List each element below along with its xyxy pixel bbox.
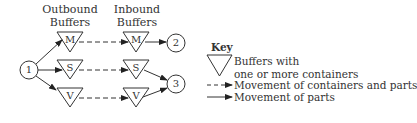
inbound-buffer-v-label: V [129,89,143,102]
key-buffer-triangle-icon [207,55,232,76]
inbound-buffer-m-label: M [129,33,143,46]
key-solid-label: Movement of parts [234,91,335,104]
inbound-header-line1: Inbound [107,3,167,16]
key-buffer-label-line1: Buffers with [234,55,299,68]
outbound-header-line1: Outbound [40,3,100,16]
outbound-header: Outbound Buffers [40,3,100,29]
inbound-buffer-s-label: S [129,61,143,74]
key-title: Key [211,41,233,54]
node-2-label: 2 [170,36,182,49]
outbound-buffer-v-label: V [63,89,77,102]
outbound-buffer-m-label: M [63,33,77,46]
node-1-label: 1 [23,63,35,76]
edge-1-to-outbound-v [36,76,56,90]
edge-inbound-s-to-3 [144,70,167,80]
inbound-header: Inbound Buffers [107,3,167,29]
node-3-label: 3 [170,77,182,90]
inbound-header-line2: Buffers [107,16,167,29]
outbound-header-line2: Buffers [40,16,100,29]
outbound-buffer-s-label: S [63,61,77,74]
